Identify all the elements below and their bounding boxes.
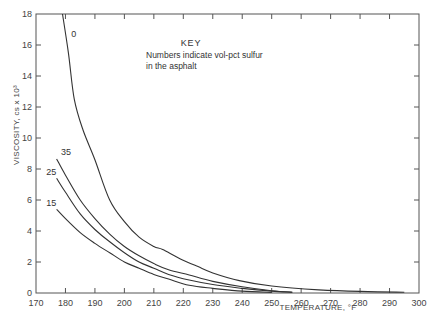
curve-sulfur-25	[57, 178, 293, 292]
y-tick-label: 6	[27, 195, 32, 205]
y-tick-label: 2	[27, 257, 32, 267]
y-tick-label: 14	[22, 71, 32, 81]
y-tick-label: 8	[27, 164, 32, 174]
series-labels: 0352515	[46, 29, 76, 208]
y-axis-title: VISCOSITY, cs x 10³	[12, 85, 21, 165]
curve-sulfur-35	[57, 159, 293, 292]
x-tick-label: 300	[411, 298, 426, 308]
x-tick-label: 220	[176, 298, 191, 308]
curve-label-35: 35	[61, 147, 71, 157]
key-line-2: in the asphalt	[146, 61, 197, 71]
curve-label-0: 0	[71, 29, 76, 39]
y-tick-label: 4	[27, 226, 32, 236]
x-tick-label: 180	[58, 298, 73, 308]
x-tick-label: 250	[264, 298, 279, 308]
x-tick-label: 190	[87, 298, 102, 308]
chart-key: KEY Numbers indicate vol-pct sulfur in t…	[146, 38, 263, 71]
x-tick-label: 240	[235, 298, 250, 308]
y-tick-label: 16	[22, 40, 32, 50]
y-tick-label: 10	[22, 133, 32, 143]
x-tick-label: 170	[28, 298, 43, 308]
key-line-1: Numbers indicate vol-pct sulfur	[146, 50, 263, 60]
viscosity-temperature-chart: 1701801902002102202302402502602702802903…	[0, 0, 436, 327]
x-tick-label: 210	[146, 298, 161, 308]
curve-label-25: 25	[46, 167, 56, 177]
y-tick-label: 0	[27, 288, 32, 298]
x-tick-label: 200	[117, 298, 132, 308]
x-tick-label: 230	[205, 298, 220, 308]
key-title: KEY	[181, 38, 201, 48]
y-tick-label: 18	[22, 9, 32, 19]
curve-label-15: 15	[46, 198, 56, 208]
y-tick-label: 12	[22, 102, 32, 112]
x-tick-label: 290	[382, 298, 397, 308]
x-axis-title: TEMPERATURE, °F	[280, 303, 357, 312]
